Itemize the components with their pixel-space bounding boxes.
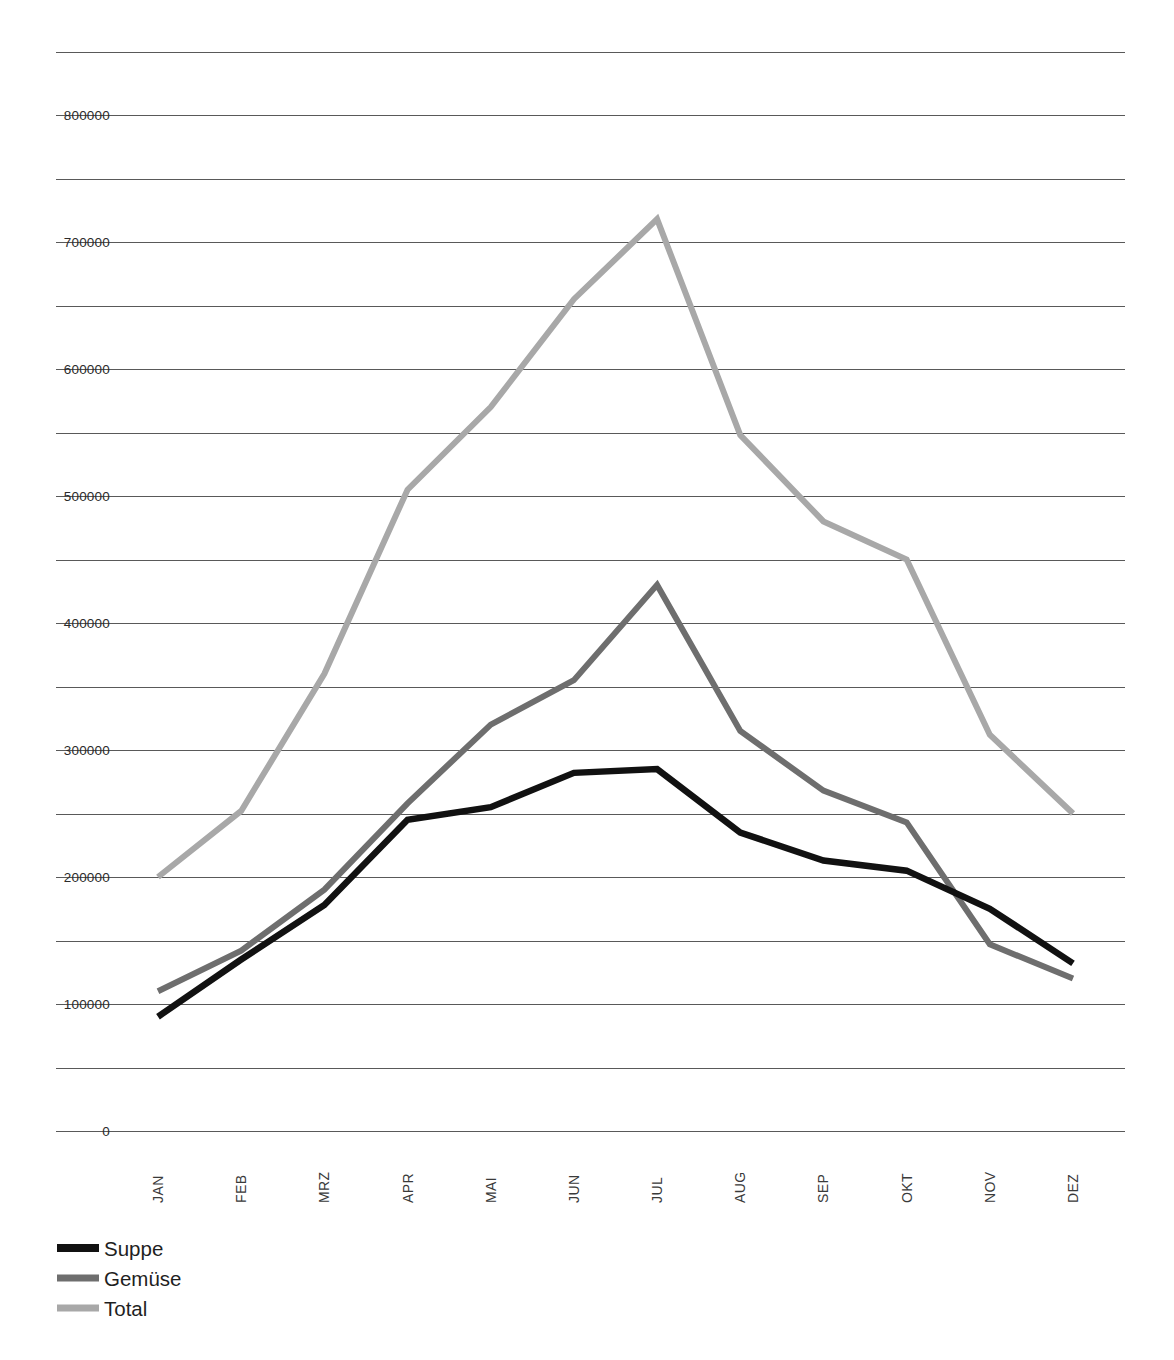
x-axis-tick-label-mrz: MRZ — [316, 1171, 332, 1203]
x-axis-tick-label-mai: MAI — [483, 1177, 499, 1203]
gridlines-group — [56, 52, 1125, 1132]
y-axis-tick-label: 200000 — [64, 870, 110, 885]
x-axis-tick-label-jan: JAN — [150, 1175, 166, 1203]
series-line-total — [158, 219, 1073, 877]
x-axis-tick-label-aug: AUG — [732, 1171, 748, 1203]
series-line-suppe — [158, 769, 1073, 1017]
y-axis-tick-label: 300000 — [64, 743, 110, 758]
y-axis-tick-label: 700000 — [64, 235, 110, 250]
series-line-gemse — [158, 585, 1073, 991]
x-axis-tick-label-jul: JUL — [649, 1177, 665, 1203]
chart-canvas: 0100000200000300000400000500000600000700… — [0, 0, 1174, 1360]
y-axis-tick-label: 400000 — [64, 616, 110, 631]
y-axis-tick-label: 500000 — [64, 489, 110, 504]
x-axis-tick-label-dez: DEZ — [1065, 1174, 1081, 1203]
y-axis-tick-label: 100000 — [64, 997, 110, 1012]
y-axis-tick-label: 0 — [102, 1124, 110, 1139]
y-tick-marks-group — [118, 116, 136, 1132]
y-axis-tick-label: 800000 — [64, 108, 110, 123]
x-axis-tick-label-jun: JUN — [566, 1175, 582, 1203]
x-axis-tick-label-okt: OKT — [899, 1173, 915, 1203]
x-axis-tick-label-apr: APR — [400, 1173, 416, 1203]
line-chart: 0100000200000300000400000500000600000700… — [0, 0, 1174, 1360]
legend-label-gemse[interactable]: Gemüse — [104, 1267, 181, 1290]
chart-legend: SuppeGemüseTotal — [57, 1237, 181, 1320]
y-axis-labels-group: 0100000200000300000400000500000600000700… — [64, 108, 110, 1139]
legend-label-total[interactable]: Total — [104, 1297, 147, 1320]
series-lines-group — [158, 219, 1073, 1017]
x-axis-tick-label-nov: NOV — [982, 1171, 998, 1203]
x-axis-tick-label-feb: FEB — [233, 1175, 249, 1203]
y-axis-tick-label: 600000 — [64, 362, 110, 377]
x-axis-tick-label-sep: SEP — [815, 1174, 831, 1203]
legend-label-suppe[interactable]: Suppe — [104, 1237, 163, 1260]
x-axis-labels-group: JANFEBMRZAPRMAIJUNJULAUGSEPOKTNOVDEZ — [150, 1171, 1081, 1203]
